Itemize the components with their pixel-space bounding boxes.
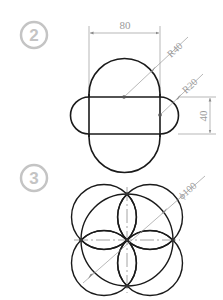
- r20-label: R20: [180, 76, 200, 95]
- figure-2: 2 80 R40: [21, 19, 216, 172]
- technical-drawing: 2 80 R40: [0, 0, 223, 300]
- figure-3: 3: [21, 165, 205, 296]
- r20-leader: R20: [158, 74, 203, 117]
- figure-2-outline: [71, 59, 179, 173]
- step-number-2: 2: [29, 26, 38, 45]
- step-number-3: 3: [29, 169, 38, 188]
- step-badge-3: 3: [21, 165, 47, 191]
- height-dimension-label: 40: [197, 110, 209, 122]
- r40-leader: R40: [122, 37, 188, 99]
- diameter-label: ϕ100: [176, 180, 199, 202]
- width-dimension: [89, 26, 160, 97]
- width-dimension-label: 80: [120, 19, 132, 31]
- step-badge-2: 2: [21, 22, 47, 48]
- diameter-dimension: ϕ100: [83, 176, 205, 283]
